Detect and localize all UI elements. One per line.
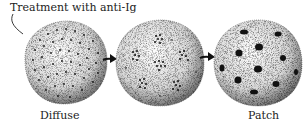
annotation-label: Treatment with anti-Ig: [10, 1, 137, 14]
cell-diffuse: [20, 18, 112, 108]
annotation-leader-line: [12, 14, 23, 34]
stage-label-patch: Patch: [248, 109, 279, 122]
cell-clustered: [110, 16, 210, 110]
stage-label-diffuse: Diffuse: [40, 109, 79, 122]
cell-patch: [208, 16, 308, 110]
